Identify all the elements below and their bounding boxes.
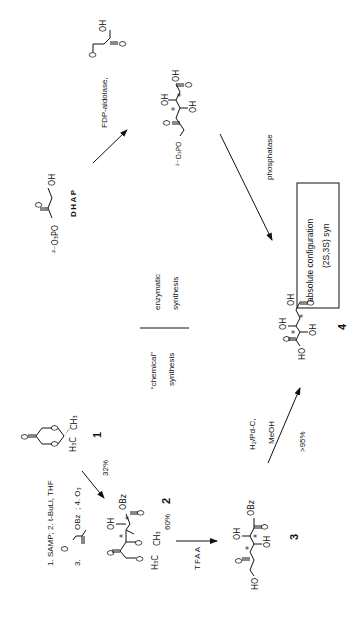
intermediate-star-2: *: [177, 93, 186, 97]
compound2-h3c: H₃C: [151, 555, 160, 570]
compound3-star-2: *: [253, 534, 262, 538]
chemical-label-line2: synthesis: [167, 353, 176, 386]
compound2-star-1: *: [119, 534, 128, 538]
compound3-number: 3: [288, 534, 300, 540]
intermediate-acid-o: O: [185, 82, 194, 88]
compound2-ketone-o: O: [107, 550, 116, 556]
compound2-number: 2: [160, 498, 172, 504]
compound1-ring-o-1: O: [51, 425, 60, 431]
compound2-ring-o-1: O: [135, 540, 144, 546]
tfaa-reagent: TFAA: [193, 546, 202, 570]
compound3-o: O: [235, 558, 244, 564]
alkylation-yield: 32%: [101, 460, 110, 476]
phosphorylated-intermediate-structure: ²⁻O₃PO O OH OH * * O OH: [161, 70, 198, 166]
intermediate-acid-oh: OH: [172, 70, 181, 82]
compound2-oh: OH: [107, 518, 116, 530]
arrow-aldolase: [93, 130, 127, 163]
compound2-ring-o-2: O: [136, 556, 145, 562]
compound2-ester-o: O: [137, 510, 146, 516]
alkylation-reagents-line1: 1. SAMP; 2. t-BuLi, THF: [46, 480, 55, 566]
compound3-oh2: OH: [233, 528, 242, 540]
compound4-star-1: *: [291, 330, 300, 334]
compound-1-structure: O O O CH₃ H₃C 1: [21, 415, 103, 452]
enzymatic-label-line2: synthesis: [171, 277, 180, 310]
intermediate-o: O: [163, 120, 172, 126]
compound2-ch3: CH₃: [153, 531, 162, 546]
hydrogenolysis-yield: >95%: [298, 431, 307, 452]
alkylation-reagents-line2-suffix: ; 4. O₃: [73, 487, 82, 510]
dhap-structure: ²⁻O₃PO O OH DHAP: [35, 174, 78, 253]
result-box-line2: (2S,3S) syn: [321, 223, 331, 268]
dhap-ketone-o: O: [35, 202, 44, 208]
compound3-ho: HO: [251, 578, 260, 590]
compound4-acid-o: O: [307, 300, 316, 306]
intermediate-star-1: *: [171, 107, 180, 111]
dhap-label: DHAP: [69, 188, 78, 217]
aldolase-reagent: FDP-aldolase,: [100, 77, 109, 128]
dhap-phosphate: ²⁻O₃PO: [51, 225, 60, 253]
compound4-oh2: OH: [279, 318, 288, 330]
compound3-oh1: OH: [263, 536, 272, 548]
compound-3-structure: HO O * OH OH * O OBz 3: [233, 500, 300, 590]
glyoxylic-carbonyl: [110, 42, 118, 44]
compound4-acid-oh: OH: [287, 294, 296, 306]
reaction-scheme: ²⁻O₃PO O OH DHAP FDP-aldolase, O OH O ²⁻…: [0, 0, 360, 621]
compound-2-structure: O O O CH₃ H₃C OH * * O OBz 2: [107, 494, 172, 570]
compound2-star-2: *: [125, 516, 134, 520]
compound3-obz: OBz: [247, 500, 256, 516]
tfaa-yield: 60%: [163, 514, 172, 530]
intermediate-oh2: OH: [189, 101, 198, 113]
intermediate-oh1: OH: [161, 94, 170, 106]
compound1-h3c: H₃C: [69, 437, 78, 452]
compound4-oh1: OH: [309, 324, 318, 336]
compound2-wedge: [146, 544, 152, 550]
result-box: [297, 183, 339, 308]
compound4-ho: HO: [298, 348, 307, 360]
glyoxylic-o2: O: [119, 41, 128, 47]
alkylation-reagents-line2-prefix: 3.: [73, 559, 82, 566]
hydrogenolysis-reagent-line1: H₂/Pd-C,: [248, 418, 257, 450]
glyoxylic-acid-structure: O OH O: [89, 20, 128, 58]
dhap-hydroxyl: OH: [48, 174, 57, 186]
hydrogenolysis-reagent-line2: MeOH: [267, 421, 276, 444]
intermediate-phosphate: ²⁻O₃PO: [175, 141, 183, 166]
enzymatic-label-line1: enzymatic: [153, 274, 162, 310]
compound4-number: 4: [336, 323, 348, 330]
compound4-o: O: [283, 336, 292, 342]
dhap-chain-bond: [48, 188, 52, 218]
chemical-label-line1: “chemical”: [149, 352, 158, 389]
compound4-chain: [296, 302, 300, 346]
compound1-ring-bonds: [36, 428, 52, 444]
compound1-number: 1: [91, 432, 103, 438]
alkylation-aldehyde-bonds: [73, 530, 86, 544]
glyoxylic-bonds: [93, 30, 110, 52]
compound4-star-2: *: [299, 314, 308, 318]
phosphatase-reagent: phosphatase: [265, 134, 274, 180]
compound3-star-1: *: [245, 546, 254, 550]
compound3-ester-o: O: [261, 524, 270, 530]
intermediate-acid-carbonyl: [176, 84, 184, 86]
glyoxylic-o: O: [89, 52, 98, 58]
alkylation-reagent-obz: OBz: [73, 514, 82, 530]
glyoxylic-oh: OH: [99, 20, 108, 32]
compound1-ch3: CH₃: [70, 415, 79, 430]
result-box-line1: absolute configuration: [305, 219, 315, 302]
compound2-obz: OBz: [119, 494, 128, 510]
alkylation-aldehyde-o: O: [61, 546, 70, 552]
